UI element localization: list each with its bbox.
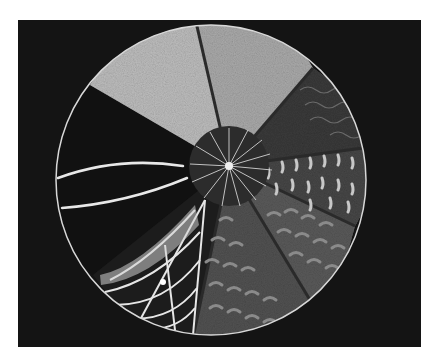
- web-center-star: [160, 279, 166, 285]
- hub-center-dot: [225, 162, 233, 170]
- chalk-drawing-artwork: [0, 0, 439, 362]
